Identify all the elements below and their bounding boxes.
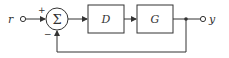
input-label: r	[8, 13, 14, 26]
sigma-symbol: Σ	[52, 12, 61, 27]
input-terminal-icon	[20, 16, 25, 21]
minus-sign: −	[44, 29, 52, 39]
output-label: y	[208, 13, 216, 26]
controller-label: D	[101, 13, 111, 26]
output-terminal-icon	[200, 16, 205, 21]
block-diagram: r Σ + − D G y	[0, 0, 229, 58]
plus-sign: +	[38, 5, 46, 15]
plant-label: G	[151, 13, 160, 26]
